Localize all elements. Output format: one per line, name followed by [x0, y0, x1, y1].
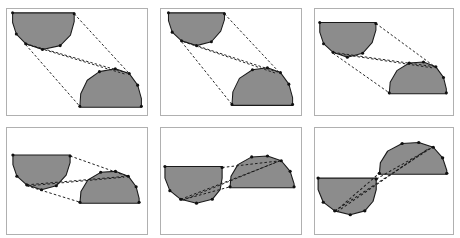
vertex-marker-4 — [195, 202, 198, 205]
vertex-marker-6 — [223, 12, 226, 15]
vertex-marker-11 — [78, 201, 81, 204]
panel-4-diagram — [7, 128, 147, 234]
panel-5-diagram — [161, 128, 301, 234]
vertex-marker-4 — [346, 56, 349, 59]
panel-6 — [308, 119, 460, 238]
dome-shape — [80, 171, 139, 203]
bowl-shape — [320, 22, 376, 57]
vertex-marker-3 — [24, 42, 27, 45]
vertex-marker-12 — [138, 201, 141, 204]
vertex-marker-3 — [25, 183, 28, 186]
panel-3 — [308, 0, 460, 119]
vertex-marker-9 — [434, 65, 437, 68]
vertex-marker-9 — [127, 175, 130, 178]
vertex-marker-1 — [316, 177, 319, 180]
vertex-marker-2 — [322, 42, 325, 45]
vertex-marker-3 — [179, 198, 182, 201]
vertex-marker-7 — [408, 61, 411, 64]
vertex-marker-2 — [168, 189, 171, 192]
vertex-marker-6 — [73, 12, 76, 15]
vertex-marker-4 — [40, 188, 43, 191]
vertex-marker-1 — [318, 21, 321, 24]
vertex-marker-5 — [210, 40, 213, 43]
vertex-marker-8 — [114, 170, 117, 173]
panel-6-diagram — [315, 128, 453, 234]
vertex-marker-9 — [128, 72, 131, 75]
vertex-marker-11 — [388, 91, 391, 94]
vertex-marker-8 — [422, 60, 425, 63]
correspondence-line-1 — [376, 23, 435, 66]
vertex-marker-10 — [442, 76, 445, 79]
panel-3-diagram — [315, 9, 453, 115]
correspondence-line-4 — [182, 42, 232, 105]
correspondence-line-4 — [26, 45, 80, 107]
vertex-marker-9 — [279, 71, 282, 74]
panel-3-frame — [314, 8, 454, 116]
vertex-marker-1 — [167, 11, 170, 14]
panel-5 — [154, 119, 308, 238]
correspondence-line-4 — [333, 53, 389, 93]
figure-root: Shape correspondence sequence — [0, 0, 460, 238]
dome-shape — [80, 69, 142, 108]
bowl-shape — [318, 178, 376, 215]
vertex-marker-12 — [293, 185, 296, 188]
vertex-marker-5 — [211, 198, 214, 201]
bowl-shape — [165, 167, 222, 204]
vertex-marker-5 — [59, 44, 62, 47]
vertex-marker-2 — [171, 31, 174, 34]
vertex-marker-9 — [280, 159, 283, 162]
vertex-marker-12 — [445, 91, 448, 94]
vertex-marker-5 — [55, 184, 58, 187]
vertex-marker-1 — [11, 11, 14, 14]
panel-6-frame — [314, 127, 454, 235]
vertex-marker-10 — [135, 185, 138, 188]
vertex-marker-8 — [417, 141, 420, 144]
vertex-marker-4 — [349, 213, 352, 216]
panel-5-frame — [160, 127, 302, 235]
vertex-marker-7 — [400, 142, 403, 145]
vertex-marker-2 — [322, 201, 325, 204]
panel-1-frame — [6, 8, 148, 116]
vertex-marker-4 — [41, 48, 44, 51]
dome-shape — [230, 156, 294, 188]
bowl-shape — [168, 13, 224, 46]
panel-grid — [0, 0, 460, 238]
vertex-marker-7 — [251, 68, 254, 71]
vertex-marker-11 — [378, 172, 381, 175]
vertex-marker-11 — [228, 185, 231, 188]
vertex-marker-7 — [250, 155, 253, 158]
vertex-marker-6 — [69, 154, 72, 157]
dome-shape — [389, 62, 446, 94]
vertex-marker-1 — [163, 165, 166, 168]
panel-1-diagram — [7, 9, 147, 115]
panel-2 — [154, 0, 308, 119]
panel-4-frame — [6, 127, 148, 235]
dome-shape — [379, 142, 446, 174]
correspondence-line-1 — [74, 14, 129, 74]
vertex-marker-9 — [432, 146, 435, 149]
vertex-marker-8 — [266, 66, 269, 69]
vertex-marker-6 — [221, 166, 224, 169]
vertex-marker-12 — [291, 103, 294, 106]
vertex-marker-8 — [114, 67, 117, 70]
vertex-marker-3 — [180, 39, 183, 42]
vertex-marker-10 — [289, 170, 292, 173]
vertex-marker-1 — [11, 153, 14, 156]
vertex-marker-3 — [332, 51, 335, 54]
panel-2-frame — [160, 8, 302, 116]
vertex-marker-5 — [361, 52, 364, 55]
vertex-marker-10 — [287, 83, 290, 86]
vertex-marker-10 — [136, 84, 139, 87]
vertex-marker-4 — [195, 44, 198, 47]
vertex-marker-7 — [98, 70, 101, 73]
vertex-marker-11 — [78, 105, 81, 108]
vertex-marker-2 — [15, 33, 18, 36]
vertex-marker-12 — [140, 105, 143, 108]
panel-4 — [0, 119, 154, 238]
bowl-shape — [13, 155, 70, 190]
vertex-marker-2 — [15, 175, 18, 178]
vertex-marker-3 — [333, 209, 336, 212]
panel-1 — [0, 0, 154, 119]
panel-2-diagram — [161, 9, 301, 115]
vertex-marker-8 — [266, 154, 269, 157]
